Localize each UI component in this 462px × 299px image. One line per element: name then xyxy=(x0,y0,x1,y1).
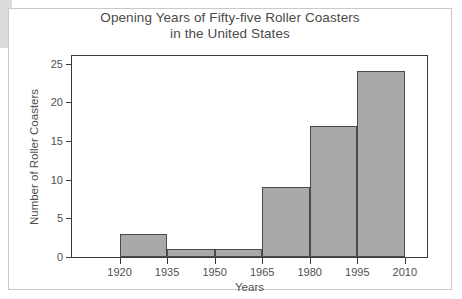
x-axis-tick xyxy=(262,257,263,264)
plot-area: 0510152025 1920193519501965198019952010 xyxy=(71,55,428,258)
y-axis-tick xyxy=(66,218,72,219)
x-axis-tick xyxy=(357,257,358,264)
x-axis-tick xyxy=(167,257,168,264)
y-axis-tick xyxy=(66,180,72,181)
x-axis-tick-label: 1965 xyxy=(250,266,274,278)
x-axis-title: Years xyxy=(71,281,428,293)
y-axis-tick xyxy=(66,64,72,65)
x-axis-tick xyxy=(120,257,121,264)
y-axis-tick-label: 15 xyxy=(51,135,63,147)
bar xyxy=(357,71,405,257)
x-axis-tick-label: 1935 xyxy=(155,266,179,278)
y-axis-tick-label: 10 xyxy=(51,174,63,186)
y-axis-title-text: Number of Roller Coasters xyxy=(28,88,40,224)
y-axis-tick-label: 5 xyxy=(57,212,63,224)
x-axis-tick-label: 1995 xyxy=(345,266,369,278)
x-axis-tick xyxy=(215,257,216,264)
y-axis-title: Number of Roller Coasters xyxy=(26,55,42,258)
y-axis-tick-label: 25 xyxy=(51,58,63,70)
bar xyxy=(120,234,168,257)
y-axis-tick xyxy=(66,102,72,103)
x-axis-tick-label: 1920 xyxy=(107,266,131,278)
y-axis-tick-label: 0 xyxy=(57,251,63,263)
x-axis-tick-label: 1980 xyxy=(297,266,321,278)
bar xyxy=(262,187,310,257)
bar xyxy=(167,249,215,257)
x-axis-tick xyxy=(405,257,406,264)
x-axis-tick-label: 2010 xyxy=(393,266,417,278)
x-axis-tick xyxy=(310,257,311,264)
y-axis-tick xyxy=(66,141,72,142)
bar xyxy=(215,249,263,257)
x-axis-tick-label: 1950 xyxy=(202,266,226,278)
chart-title: Opening Years of Fifty-five Roller Coast… xyxy=(30,10,430,42)
bars-layer xyxy=(72,56,427,257)
y-axis-tick-label: 20 xyxy=(51,96,63,108)
bar xyxy=(310,126,358,257)
y-axis-tick xyxy=(66,257,72,258)
